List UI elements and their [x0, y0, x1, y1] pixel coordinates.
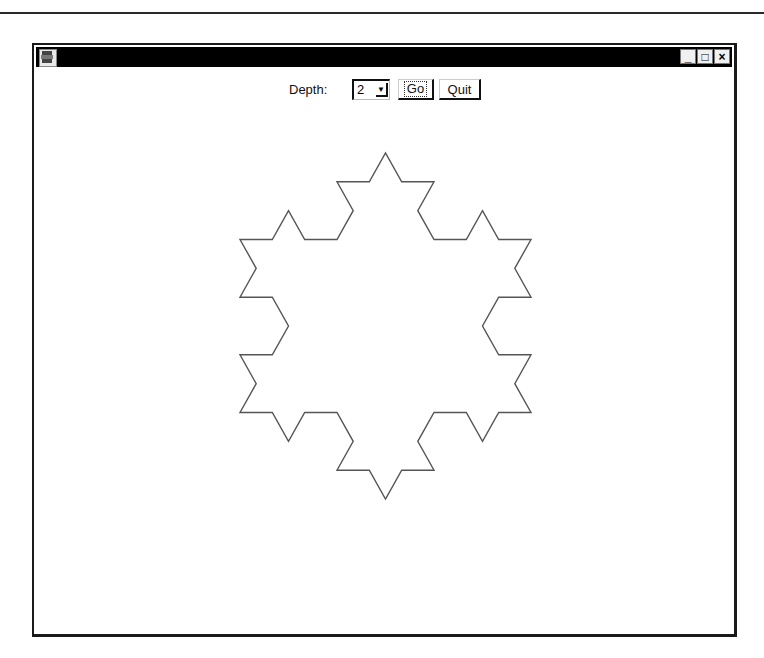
drawing-canvas: [0, 0, 764, 658]
koch-snowflake: [240, 153, 531, 499]
